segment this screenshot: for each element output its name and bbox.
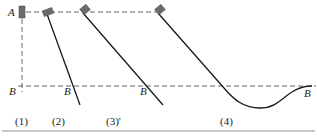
block-1-icon bbox=[19, 6, 25, 18]
caption-4: (4) bbox=[220, 116, 233, 127]
path-4-curve bbox=[158, 13, 312, 108]
label-B-2: B bbox=[64, 86, 71, 97]
caption-3: (3)' bbox=[106, 116, 121, 127]
block-2-icon bbox=[42, 7, 53, 16]
caption-2: (2) bbox=[52, 116, 65, 127]
block-4-icon bbox=[155, 4, 166, 15]
diagram-canvas bbox=[0, 0, 317, 138]
block-3-icon bbox=[80, 4, 91, 15]
label-B-1: B bbox=[9, 86, 16, 97]
label-B-3: B bbox=[140, 86, 147, 97]
bottom-rule bbox=[2, 130, 315, 132]
caption-1: (1) bbox=[15, 116, 28, 127]
path-3-line bbox=[83, 13, 163, 105]
label-A: A bbox=[8, 7, 15, 18]
label-B-4: B bbox=[304, 88, 311, 99]
